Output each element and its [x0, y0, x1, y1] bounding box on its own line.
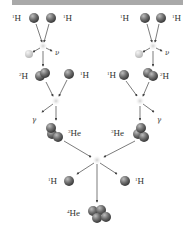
proton-sphere: [29, 13, 39, 23]
neutrino-label: ν: [55, 49, 60, 57]
reaction-point: [148, 41, 158, 51]
label-3He: 3He: [68, 128, 81, 138]
proton-sphere: [64, 69, 74, 79]
label-1H: 1H: [172, 13, 182, 23]
mid-left-fusion: 2H 1H γ: [19, 68, 90, 124]
label-1H: 1H: [80, 70, 90, 80]
helium3-right: 3He: [104, 123, 149, 157]
top-right-fusion: 1H 1H ν: [120, 13, 182, 66]
label-2H: 2H: [19, 71, 29, 81]
label-1H: 1H: [48, 176, 58, 186]
proton-sphere: [140, 13, 150, 23]
label-4He: 4He: [67, 208, 80, 218]
helium3-left: 3He: [46, 123, 91, 157]
proton-sphere: [120, 176, 130, 186]
label-1H: 1H: [135, 176, 145, 186]
neutrino-label: ν: [165, 49, 170, 57]
label-1H: 1H: [120, 13, 130, 23]
reaction-point: [38, 41, 48, 51]
label-2H: 2H: [160, 71, 170, 81]
final-fusion: 1H 1H 4He: [48, 155, 145, 223]
positron-sphere: [135, 50, 143, 58]
proton-sphere: [64, 176, 74, 186]
proton-sphere: [119, 70, 129, 80]
gamma-label: γ: [32, 116, 37, 124]
label-1H: 1H: [107, 70, 117, 80]
gamma-label: γ: [157, 116, 162, 124]
top-left-fusion: 1H 1H ν: [12, 13, 73, 66]
label-1H: 1H: [12, 13, 22, 23]
deuterium-sphere: [40, 68, 50, 78]
proton-sphere: [46, 13, 56, 23]
deuterium-sphere: [148, 71, 158, 81]
positron-sphere: [25, 50, 33, 58]
proton-proton-chain-diagram: 1H 1H ν 1H 1H ν 2H 1H γ: [0, 0, 190, 242]
mid-right-fusion: 1H 2H γ: [107, 68, 170, 124]
proton-sphere: [156, 13, 166, 23]
label-1H: 1H: [63, 13, 73, 23]
label-3He: 3He: [111, 128, 124, 138]
helium4-cluster: [88, 205, 111, 223]
